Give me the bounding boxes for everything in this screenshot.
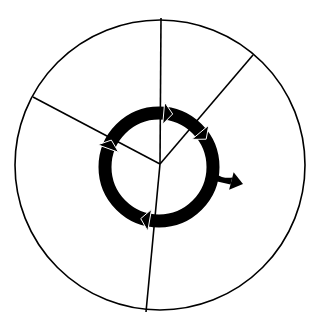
segment-top-line [160,18,161,164]
cycle-diagram [0,0,316,331]
segment-dividers [33,18,253,312]
exit-arrow-icon [215,172,243,189]
segment-bottom-line [146,164,160,312]
segment-left-line [33,97,160,164]
exit-arrow-shaft [215,174,232,184]
